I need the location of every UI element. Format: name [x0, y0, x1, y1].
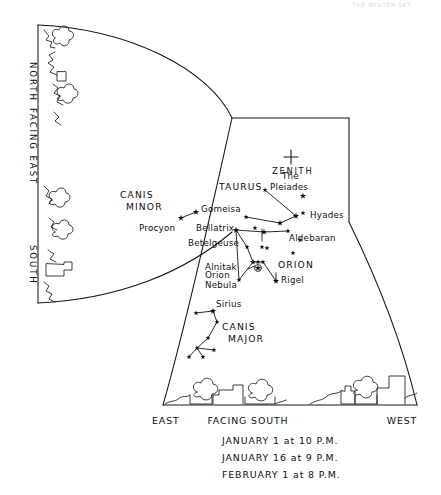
edge-label-north: NORTH	[28, 62, 38, 102]
zenith-marker	[284, 150, 298, 164]
caption-line-2: JANUARY 16 at 9 P.M.	[221, 452, 338, 463]
constellation-line	[265, 190, 296, 216]
constellation-label: MAJOR	[228, 333, 264, 344]
star-label: Gomeisa	[201, 204, 241, 214]
star-label: The	[281, 171, 299, 181]
constellation-line	[197, 348, 214, 350]
orion-nebula-core	[257, 267, 259, 269]
star-marker	[211, 347, 216, 352]
constellation-line	[263, 262, 276, 281]
constellation-label: MINOR	[126, 201, 163, 212]
star-label: Hyades	[310, 210, 344, 220]
star-label: Rigel	[281, 275, 304, 285]
star-marker	[300, 210, 305, 215]
edge-label-facing-east: FACING EAST	[28, 108, 38, 185]
east-horizon-skyline	[44, 26, 78, 302]
constellation-line	[197, 338, 208, 348]
star-marker	[300, 193, 306, 199]
star-marker	[243, 214, 248, 219]
edge-label-south: SOUTH	[28, 245, 38, 285]
constellation-label: ORION	[278, 259, 314, 270]
sky-map-canvas: THE WINTER SKY NORTH FACING	[0, 0, 441, 495]
constellation-line	[247, 247, 253, 262]
caption-line-1: JANUARY 1 at 10 P.M.	[221, 435, 338, 446]
star-marker	[260, 259, 265, 264]
constellation-line	[246, 217, 280, 223]
star-marker	[214, 319, 219, 324]
label-leader-lines	[248, 229, 276, 279]
edge-label-west: WEST	[387, 415, 417, 426]
star-label: Nebula	[205, 280, 237, 290]
star-marker	[255, 259, 260, 264]
star-chart: THE WINTER SKY NORTH FACING	[0, 0, 441, 495]
constellation-line	[264, 231, 288, 232]
star-marker	[178, 215, 184, 221]
star-marker	[193, 209, 199, 215]
star-marker	[264, 245, 269, 250]
star-marker	[250, 259, 256, 265]
star-label: Procyon	[139, 223, 175, 233]
star-label: Sirius	[216, 299, 242, 309]
edge-label-east: EAST	[152, 415, 180, 426]
star-label: Aldebaran	[289, 233, 336, 243]
caption-line-3: FEBRUARY 1 at 8 P.M.	[222, 469, 341, 480]
star-label: Pleiades	[270, 182, 308, 192]
star-marker	[290, 250, 295, 255]
edge-label-facing-south: FACING SOUTH	[207, 415, 288, 426]
constellation-line	[196, 311, 213, 313]
constellation-line	[280, 216, 296, 223]
star-marker	[277, 220, 283, 226]
south-horizon-skyline	[165, 376, 417, 404]
constellation-label: TAURUS	[218, 181, 262, 192]
star-label: Betelgeuse	[188, 238, 239, 248]
star-label: Orion	[205, 270, 230, 280]
star-marker	[193, 310, 198, 315]
constellation-label: CANIS	[120, 189, 154, 200]
constellation-line	[239, 262, 253, 280]
constellation-line	[208, 322, 217, 338]
constellation-label: CANIS	[222, 321, 256, 332]
star-label: Bellatrix	[196, 223, 234, 233]
constellation-line	[236, 230, 264, 232]
page-header: THE WINTER SKY	[351, 1, 411, 8]
star-marker	[252, 225, 257, 230]
star-marker	[259, 244, 264, 249]
